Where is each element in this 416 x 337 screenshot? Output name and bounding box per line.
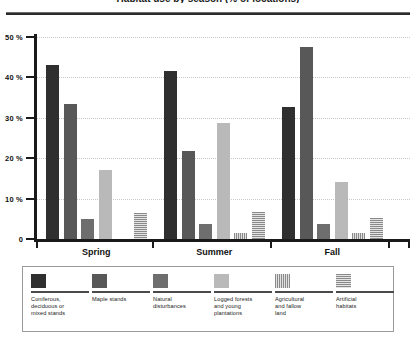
x-axis-tick — [408, 239, 410, 248]
gridline — [37, 77, 410, 78]
chart-title-fragment: Habitat use by season (% of locations) — [0, 0, 416, 3]
legend-item-5: Agricultural and fallow land — [275, 274, 335, 317]
series-3-swatch — [153, 274, 168, 288]
bar-summer-series-5 — [234, 233, 247, 239]
header-divider — [6, 12, 410, 15]
x-axis-tick — [270, 239, 272, 248]
legend-item-label: Artificial habitats — [336, 296, 396, 310]
bar-spring-series-4 — [99, 170, 112, 239]
bar-fall-series-2 — [300, 47, 313, 239]
bar-spring-series-3 — [81, 219, 94, 239]
legend-item-label: Logged forests and young plantations — [214, 296, 274, 317]
y-axis-tick — [26, 117, 34, 119]
bar-summer-series-2 — [182, 151, 195, 239]
bar-summer-series-6 — [252, 212, 265, 239]
y-axis-tick — [26, 36, 34, 38]
bar-spring-series-2 — [64, 104, 77, 239]
series-2-swatch — [92, 274, 107, 288]
legend-item-4: Logged forests and young plantations — [214, 274, 274, 317]
legend-item-2: Maple stands — [92, 274, 152, 303]
legend-item-rule — [336, 291, 394, 293]
y-axis-label: 40 % — [5, 73, 23, 82]
series-5-swatch — [275, 274, 290, 288]
bar-summer-series-1 — [164, 71, 177, 239]
x-axis-group-label-spring: Spring — [82, 247, 111, 257]
legend-item-rule — [214, 291, 272, 293]
legend-item-6: Artificial habitats — [336, 274, 396, 310]
legend-item-3: Natural disturbances — [153, 274, 213, 310]
bar-summer-series-4 — [217, 123, 230, 239]
x-axis — [34, 239, 410, 242]
chart-legend: Coniferous, deciduous or mixed standsMap… — [22, 266, 394, 332]
legend-item-rule — [153, 291, 211, 293]
bar-spring-series-6 — [134, 213, 147, 239]
y-axis-label: 0 — [19, 235, 23, 244]
legend-item-label: Coniferous, deciduous or mixed stands — [31, 296, 91, 317]
y-axis-tick — [26, 198, 34, 200]
y-axis — [34, 34, 37, 242]
x-axis-group-label-summer: Summer — [196, 247, 232, 257]
x-axis-group-label-fall: Fall — [324, 247, 340, 257]
x-axis-tick — [36, 239, 38, 248]
y-axis-label: 20 % — [5, 154, 23, 163]
legend-item-rule — [275, 291, 333, 293]
bar-chart-figure: Habitat use by season (% of locations) 0… — [0, 0, 416, 337]
bar-fall-series-4 — [335, 182, 348, 239]
legend-item-1: Coniferous, deciduous or mixed stands — [31, 274, 91, 317]
bar-fall-series-1 — [282, 107, 295, 240]
legend-item-rule — [31, 291, 89, 293]
series-1-swatch — [31, 274, 46, 288]
y-axis-label: 10 % — [5, 194, 23, 203]
bar-fall-series-5 — [352, 233, 365, 239]
series-4-swatch — [214, 274, 229, 288]
bar-summer-series-3 — [199, 224, 212, 239]
y-axis-label: 30 % — [5, 113, 23, 122]
legend-item-label: Natural disturbances — [153, 296, 213, 310]
gridline — [37, 37, 410, 38]
bar-fall-series-6 — [370, 218, 383, 239]
bar-fall-series-3 — [317, 224, 330, 239]
legend-item-label: Agricultural and fallow land — [275, 296, 335, 317]
bar-spring-series-1 — [46, 65, 59, 239]
series-6-swatch — [336, 274, 351, 288]
y-axis-label: 50 % — [5, 33, 23, 42]
plot-area: 010 %20 %30 %40 %50 %SpringSummerFall — [34, 34, 410, 242]
x-axis-tick — [388, 239, 390, 248]
x-axis-tick — [152, 239, 154, 248]
gridline — [37, 118, 410, 119]
legend-item-label: Maple stands — [92, 296, 152, 303]
y-axis-tick — [26, 157, 34, 159]
y-axis-tick — [26, 76, 34, 78]
legend-item-rule — [92, 291, 150, 293]
y-axis-tick — [26, 238, 34, 240]
